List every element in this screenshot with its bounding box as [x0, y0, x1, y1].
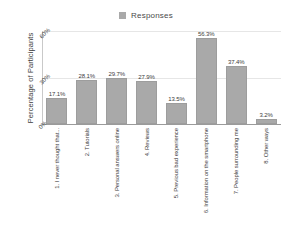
bar-value-label: 28.1% [79, 73, 96, 79]
x-tick-slot-2: 2. Tutorials [72, 128, 101, 228]
bar-item-7[interactable]: 37.4% [222, 31, 251, 124]
bar-value-label: 27.9% [138, 74, 155, 80]
plot-area: Percentage of Participants 60% 30% 0% 17… [42, 31, 281, 125]
bar-item-1[interactable]: 17.1% [42, 31, 71, 124]
x-axis-line [42, 124, 281, 125]
x-tick-label: 7. People surrounding me [233, 128, 239, 194]
bar-rect[interactable] [166, 103, 187, 124]
bar-value-label: 13.5% [168, 96, 185, 102]
bar-rect[interactable] [76, 80, 97, 124]
bar-rect[interactable] [196, 38, 217, 124]
y-axis-title: Percentage of Participants [26, 0, 38, 23]
bar-rect[interactable] [226, 66, 247, 124]
x-tick-slot-8: 8. Other ways [252, 128, 281, 228]
bar-item-6[interactable]: 56.3% [192, 31, 221, 124]
x-axis-tick-labels: 1. I never thought that... 2. Tutorials … [42, 128, 281, 228]
bar-value-label: 17.1% [49, 91, 66, 97]
x-tick-slot-1: 1. I never thought that... [42, 128, 71, 228]
bar-item-8[interactable]: 3.2% [252, 31, 281, 124]
bar-item-5[interactable]: 13.5% [162, 31, 191, 124]
bar-rect[interactable] [256, 119, 277, 124]
legend-square-marker [119, 12, 126, 19]
x-tick-slot-7: 7. People surrounding me [222, 128, 251, 228]
bar-item-2[interactable]: 28.1% [72, 31, 101, 124]
bar-value-label: 37.4% [228, 59, 245, 65]
x-tick-label: 6. Information on the smartphone [203, 128, 209, 213]
bar-rect[interactable] [46, 98, 67, 125]
legend-label-responses: Responses [131, 11, 173, 20]
x-tick-label: 1. I never thought that... [54, 128, 60, 189]
bar-rect[interactable] [136, 81, 157, 124]
chart-legend: Responses [0, 11, 292, 20]
bar-group: 17.1% 28.1% 29.7% 27.9% 13.5% 56.3% [42, 31, 281, 124]
x-tick-label: 3. Personal answers online [114, 128, 120, 197]
bar-value-label: 56.3% [198, 31, 215, 37]
bar-item-4[interactable]: 27.9% [132, 31, 161, 124]
bar-chart: Responses Percentage of Participants 60%… [0, 0, 292, 231]
x-tick-slot-5: 5. Previous bad experience [162, 128, 191, 228]
bar-item-3[interactable]: 29.7% [102, 31, 131, 124]
bar-rect[interactable] [106, 78, 127, 124]
x-tick-label: 5. Previous bad experience [173, 128, 179, 198]
x-tick-slot-4: 4. Reviews [132, 128, 161, 228]
bar-value-label: 3.2% [259, 112, 272, 118]
x-tick-slot-3: 3. Personal answers online [102, 128, 131, 228]
x-tick-slot-6: 6. Information on the smartphone [192, 128, 221, 228]
x-tick-label: 8. Other ways [263, 128, 269, 164]
x-tick-label: 4. Reviews [144, 128, 150, 156]
x-tick-label: 2. Tutorials [84, 128, 90, 156]
bar-value-label: 29.7% [108, 71, 125, 77]
